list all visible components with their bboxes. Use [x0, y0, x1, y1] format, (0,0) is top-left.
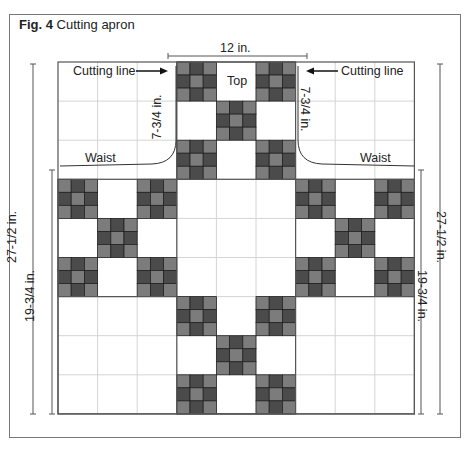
label-cutting-line-left: Cutting line [73, 64, 136, 78]
ninepatch-block [177, 375, 217, 414]
label-skirt-height-right: 19-3/4 in. [415, 270, 429, 322]
apron-diagram [0, 0, 476, 456]
ninepatch-block [335, 218, 375, 257]
ninepatch-block [58, 179, 98, 218]
label-waist-right: Waist [360, 151, 391, 165]
label-top-width: 12 in. [220, 41, 251, 55]
label-skirt-height-left: 19-3/4 in. [23, 270, 37, 322]
ninepatch-blocks [58, 62, 414, 414]
ninepatch-block [216, 336, 256, 375]
arrow-left-icon [306, 68, 338, 75]
label-cutting-line-right: Cutting line [341, 64, 404, 78]
ninepatch-block [256, 297, 296, 336]
ninepatch-block [177, 140, 217, 179]
ninepatch-block [98, 218, 138, 257]
ninepatch-block [137, 258, 177, 297]
ninepatch-block [177, 62, 217, 101]
label-total-height-left: 27-1/2 in. [5, 211, 19, 263]
dimension-line-skirt-left [49, 170, 55, 414]
ninepatch-block [216, 101, 256, 140]
label-total-height-right: 27-1/2 in. [434, 211, 448, 263]
ninepatch-block [58, 258, 98, 297]
label-top: Top [227, 74, 247, 88]
cutting-curve-right [298, 66, 414, 166]
ninepatch-block [177, 297, 217, 336]
label-cut-depth-left: 7-3/4 in. [150, 94, 164, 139]
dimension-line-total-left [30, 64, 36, 414]
ninepatch-block [296, 179, 336, 218]
ninepatch-block [256, 140, 296, 179]
arrow-right-icon [136, 68, 168, 75]
ninepatch-block [296, 258, 336, 297]
label-cut-depth-right: 7-3/4 in. [298, 86, 312, 131]
label-waist-left: Waist [85, 151, 116, 165]
ninepatch-block [375, 258, 415, 297]
ninepatch-block [256, 375, 296, 414]
ninepatch-block [256, 62, 296, 101]
ninepatch-block [375, 179, 415, 218]
ninepatch-block [137, 179, 177, 218]
